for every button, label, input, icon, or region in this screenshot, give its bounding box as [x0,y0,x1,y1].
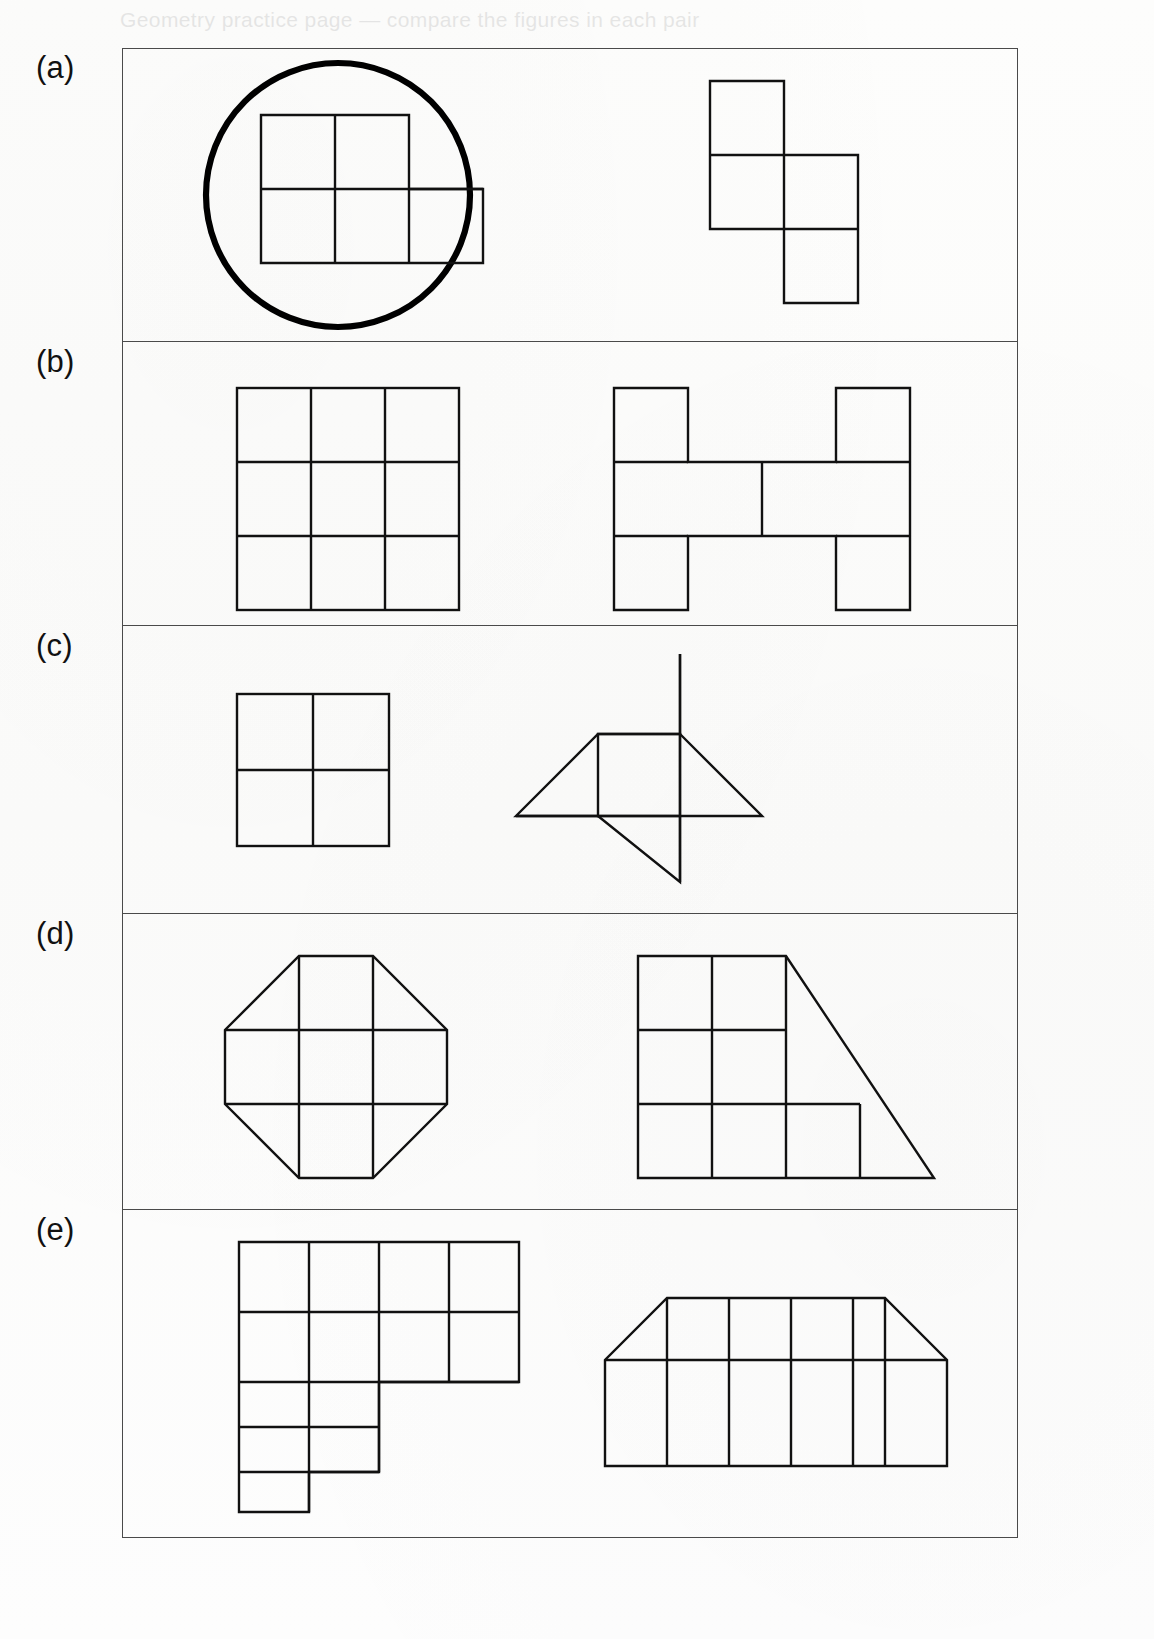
row-b-right-figure [608,382,938,612]
row-b-left-figure [231,382,471,612]
h-shape-outline [614,388,910,610]
three-by-three-grid-outline [237,388,459,610]
row-label-a: (a) [36,50,75,86]
row-e-right-figure [591,1290,961,1490]
row-label-e: (e) [36,1212,75,1248]
figure-row-e [123,1209,1017,1535]
row-a-right-figure [678,73,898,323]
figure-row-b [123,341,1017,625]
row-label-c: (c) [36,628,73,664]
row-label-b: (b) [36,344,75,380]
row-d-left-figure [213,946,503,1196]
figure-frame [122,48,1018,1538]
two-by-two-grid-outline [237,694,389,846]
staircase-polyomino-outline [239,1242,519,1512]
figure-row-a [123,49,1017,341]
row-a-left-figure [201,55,491,335]
p-pentomino-outline [261,115,483,263]
stepped-trapezoid-outline [638,956,934,1178]
row-c-left-figure [231,688,401,858]
row-e-left-figure [231,1234,551,1514]
row-c-right-figure [478,646,808,896]
figure-row-d [123,913,1017,1209]
figure-row-c [123,625,1017,913]
row-label-d: (d) [36,916,75,952]
page-header-ghost-text: Geometry practice page — compare the fig… [0,0,1154,46]
row-d-right-figure [628,946,958,1196]
octagon-grid-outline [225,956,447,1178]
pinwheel-star-outline [516,654,762,882]
selection-circle [206,63,470,327]
trapezoid-grid-outline [605,1298,947,1466]
s-tetromino-outline [710,81,858,303]
worksheet-page: Geometry practice page — compare the fig… [0,0,1154,1639]
